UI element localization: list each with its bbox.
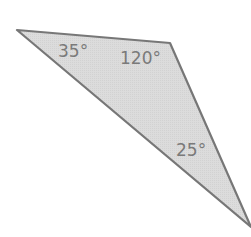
angle-label-bottom: 25°: [176, 140, 206, 160]
triangle-diagram: 35° 120° 25°: [0, 0, 251, 237]
angle-label-top-left: 35°: [58, 41, 88, 61]
angle-label-top-right: 120°: [120, 48, 161, 68]
triangle-svg: 35° 120° 25°: [0, 0, 251, 237]
